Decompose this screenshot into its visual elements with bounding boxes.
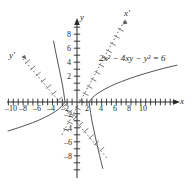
y-tick-label: 4 xyxy=(67,58,71,67)
y-tick-label: 6 xyxy=(67,44,71,53)
x-tick-label: 6 xyxy=(113,104,117,113)
y-axis xyxy=(74,18,80,178)
x-tick-label: 8 xyxy=(127,104,131,113)
y-tick-label: –4 xyxy=(64,124,72,133)
equation-text: 2x² − 4xy − y² = 6 xyxy=(99,53,166,63)
y-tick-label: –8 xyxy=(64,152,72,161)
graph-canvas xyxy=(0,0,192,184)
x-tick-label: –10 xyxy=(5,104,17,113)
x-tick-label: –4 xyxy=(47,104,55,113)
y-axis-arrowhead xyxy=(74,18,80,25)
x-prime-ticks xyxy=(64,29,123,132)
axis-label-y-prime: y′ xyxy=(9,50,15,60)
x-tick-label: 10 xyxy=(139,104,147,113)
x-tick-label: 2 xyxy=(85,104,89,113)
conic-graph-figure: x y x′ y′ 2x² − 4xy − y² = 6 –10 –8 –6 –… xyxy=(0,0,192,184)
y-tick-label: 2 xyxy=(67,72,71,81)
curve-branch-lower-left-steep xyxy=(54,41,65,102)
curve-branch-upper-right xyxy=(89,65,177,102)
y-prime-arrowhead xyxy=(22,55,27,60)
axis-label-y: y xyxy=(80,12,84,22)
x-tick-label: 4 xyxy=(99,104,103,113)
y-tick-label: –2 xyxy=(64,110,72,119)
x-tick-label: –6 xyxy=(33,104,41,113)
y-tick-label: –6 xyxy=(64,138,72,147)
equation-annotation: 2x² − 4xy − y² = 6 xyxy=(99,53,166,63)
x-axis-arrowhead xyxy=(173,99,180,105)
y-tick-label: 8 xyxy=(67,30,71,39)
axis-label-x-prime: x′ xyxy=(124,8,130,18)
axis-label-x: x xyxy=(180,96,184,106)
x-tick-label: –8 xyxy=(19,104,27,113)
